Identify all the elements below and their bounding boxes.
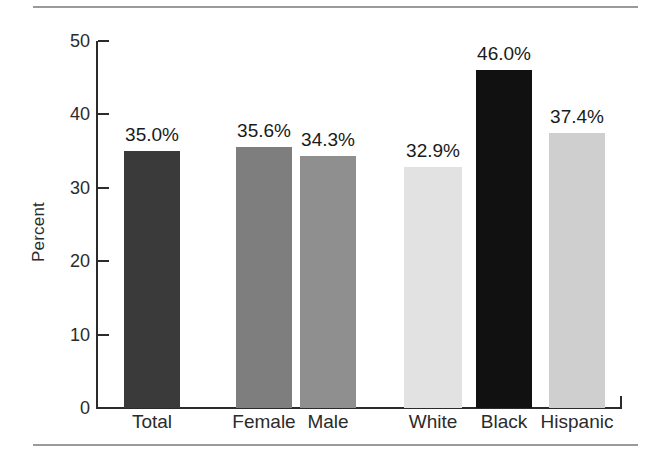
x-axis-label-hispanic: Hispanic xyxy=(522,412,632,431)
bar-female[interactable] xyxy=(236,147,292,408)
bar-male[interactable] xyxy=(300,156,356,408)
y-axis-tick-label-10: 10 xyxy=(50,326,90,344)
y-axis-tick-label-30: 30 xyxy=(50,179,90,197)
plot-area: 35.0%35.6%34.3%32.9%46.0%37.4% xyxy=(96,41,622,408)
bar-value-label-black: 46.0% xyxy=(459,44,549,63)
y-axis-tick-label-20: 20 xyxy=(50,252,90,270)
y-axis-tick-label-50: 50 xyxy=(50,32,90,50)
x-axis-label-total: Total xyxy=(97,412,207,431)
bar-white[interactable] xyxy=(404,167,462,408)
bar-value-label-white: 32.9% xyxy=(388,141,478,160)
x-axis-label-male: Male xyxy=(273,412,383,431)
bar-total[interactable] xyxy=(124,151,180,408)
bar-hispanic[interactable] xyxy=(549,133,605,408)
y-axis-tick-label-40: 40 xyxy=(50,105,90,123)
y-axis-title: Percent xyxy=(29,187,49,277)
bar-value-label-total: 35.0% xyxy=(107,125,197,144)
bar-chart-figure: Percent 01020304050 35.0%35.6%34.3%32.9%… xyxy=(0,0,655,459)
bar-value-label-hispanic: 37.4% xyxy=(532,107,622,126)
bar-value-label-male: 34.3% xyxy=(283,130,373,149)
bar-black[interactable] xyxy=(476,70,532,408)
y-axis-tick-label-0: 0 xyxy=(50,399,90,417)
